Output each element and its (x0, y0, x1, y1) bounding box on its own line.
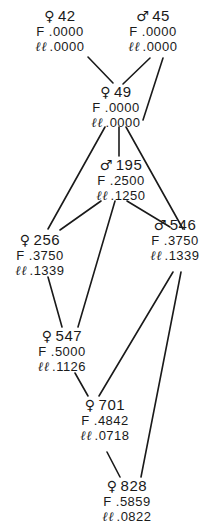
ll-coefficient: ℓℓ.0822 (91, 509, 163, 523)
female-symbol-icon: ♀ (20, 232, 31, 248)
individual-id: 42 (58, 7, 76, 24)
ll-value: .0718 (95, 428, 130, 443)
individual-id: 546 (170, 216, 197, 233)
female-symbol-icon: ♀ (100, 84, 111, 100)
individual-195: ♂195F .2500ℓℓ.1250 (85, 157, 157, 203)
ll-coefficient: ℓℓ.1339 (4, 263, 76, 278)
individual-id: 547 (56, 327, 83, 344)
f-label: F (151, 233, 159, 248)
individual-id-row: ♂45 (117, 8, 189, 24)
ll-coefficient: ℓℓ.1126 (26, 359, 98, 374)
individual-id-row: ♀42 (24, 8, 96, 24)
f-label: F (103, 494, 111, 509)
ll-value: .0822 (117, 509, 152, 523)
male-symbol-icon: ♂ (136, 8, 149, 24)
f-value: .3750 (29, 248, 64, 263)
male-symbol-icon: ♂ (154, 217, 167, 233)
female-symbol-icon: ♀ (107, 478, 118, 494)
edge-546-to-701 (99, 272, 173, 396)
individual-828: ♀828F .5859ℓℓ.0822 (91, 478, 163, 523)
ll-value: .0000 (143, 39, 178, 54)
individual-42: ♀42F .0000ℓℓ.0000 (24, 8, 96, 54)
individual-id-row: ♀828 (91, 478, 163, 494)
ll-coefficient: ℓℓ.0000 (24, 39, 96, 54)
ll-label: ℓℓ (150, 248, 162, 263)
individual-id: 45 (152, 7, 170, 24)
edge-547-to-701 (75, 373, 88, 396)
ll-value: .1339 (30, 263, 65, 278)
ll-value: .0000 (50, 39, 85, 54)
individual-id: 195 (116, 156, 143, 173)
f-value: .0000 (49, 24, 84, 39)
individual-45: ♂45F .0000ℓℓ.0000 (117, 8, 189, 54)
ll-label: ℓℓ (38, 359, 50, 374)
ll-label: ℓℓ (102, 509, 114, 523)
ll-value: .1250 (111, 188, 146, 203)
ll-label: ℓℓ (96, 188, 108, 203)
individual-id-row: ♂195 (85, 157, 157, 173)
f-label: F (97, 173, 105, 188)
female-symbol-icon: ♀ (44, 8, 55, 24)
edge-42-to-49 (88, 57, 113, 83)
f-value: .4842 (94, 413, 129, 428)
individual-id-row: ♀547 (26, 328, 98, 344)
edge-195-to-256 (60, 201, 101, 230)
individual-id-row: ♂546 (139, 217, 211, 233)
female-symbol-icon: ♀ (42, 328, 53, 344)
ll-label: ℓℓ (15, 263, 27, 278)
ll-value: .0000 (106, 115, 141, 130)
f-label: F (92, 100, 100, 115)
edge-546-to-828 (141, 272, 181, 477)
ll-value: .1126 (52, 359, 86, 374)
f-value: .5000 (51, 344, 86, 359)
individual-id: 49 (114, 83, 132, 100)
inbreeding-coefficient: F .5859 (91, 494, 163, 509)
f-value: .3750 (164, 233, 199, 248)
ll-coefficient: ℓℓ.0000 (80, 115, 152, 130)
male-symbol-icon: ♂ (100, 157, 113, 173)
individual-id: 828 (121, 477, 148, 494)
ll-coefficient: ℓℓ.1250 (85, 188, 157, 203)
inbreeding-coefficient: F .0000 (80, 100, 152, 115)
f-label: F (129, 24, 137, 39)
ll-coefficient: ℓℓ.0000 (117, 39, 189, 54)
individual-id-row: ♀256 (4, 232, 76, 248)
female-symbol-icon: ♀ (85, 397, 96, 413)
individual-id-row: ♀49 (80, 84, 152, 100)
individual-547: ♀547F .5000ℓℓ.1126 (26, 328, 98, 374)
individual-546: ♂546F .3750ℓℓ.1339 (139, 217, 211, 263)
f-label: F (81, 413, 89, 428)
ll-coefficient: ℓℓ.0718 (69, 428, 141, 443)
f-value: .5859 (116, 494, 151, 509)
edge-701-to-828 (107, 452, 120, 477)
inbreeding-coefficient: F .0000 (117, 24, 189, 39)
ll-label: ℓℓ (80, 428, 92, 443)
inbreeding-coefficient: F .3750 (139, 233, 211, 248)
edge-256-to-547 (48, 277, 62, 327)
inbreeding-coefficient: F .5000 (26, 344, 98, 359)
individual-49: ♀49F .0000ℓℓ.0000 (80, 84, 152, 130)
individual-id: 256 (34, 231, 61, 248)
inbreeding-coefficient: F .0000 (24, 24, 96, 39)
f-label: F (36, 24, 44, 39)
edge-195-to-547 (78, 201, 115, 327)
ll-label: ℓℓ (128, 39, 140, 54)
ll-label: ℓℓ (91, 115, 103, 130)
individual-id: 701 (99, 396, 126, 413)
f-label: F (16, 248, 24, 263)
f-value: .2500 (110, 173, 145, 188)
edge-45-to-49 (123, 58, 150, 84)
inbreeding-coefficient: F .2500 (85, 173, 157, 188)
inbreeding-coefficient: F .3750 (4, 248, 76, 263)
individual-id-row: ♀701 (69, 397, 141, 413)
individual-256: ♀256F .3750ℓℓ.1339 (4, 232, 76, 278)
ll-value: .1339 (165, 248, 200, 263)
ll-coefficient: ℓℓ.1339 (139, 248, 211, 263)
inbreeding-coefficient: F .4842 (69, 413, 141, 428)
individual-701: ♀701F .4842ℓℓ.0718 (69, 397, 141, 443)
f-label: F (38, 344, 46, 359)
f-value: .0000 (142, 24, 177, 39)
f-value: .0000 (105, 100, 140, 115)
ll-label: ℓℓ (35, 39, 47, 54)
